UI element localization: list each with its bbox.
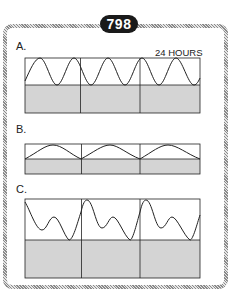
panel-a-shaded-region — [25, 85, 200, 113]
panel-a-waveform — [25, 58, 200, 85]
panel-c-shaded-region — [25, 240, 200, 278]
panel-c-waveform — [25, 200, 200, 240]
panel-b — [25, 144, 200, 174]
rhythm-diagram — [0, 0, 241, 300]
panel-a — [25, 58, 200, 113]
panel-c — [25, 199, 200, 278]
panel-b-waveform — [25, 145, 200, 159]
panel-b-shaded-region — [25, 159, 200, 174]
